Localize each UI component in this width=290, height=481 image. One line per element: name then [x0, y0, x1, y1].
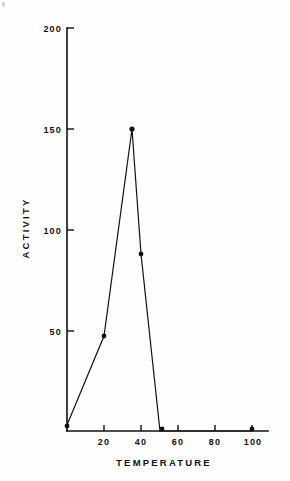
data-point-4 — [160, 427, 165, 432]
x-tick-label-40: 40 — [135, 437, 147, 447]
scan-artifact — [2, 2, 5, 7]
x-tick-label-80: 80 — [209, 437, 221, 447]
data-point-0 — [65, 424, 70, 429]
data-point-2 — [129, 126, 134, 131]
y-axis-title: ACTIVITY — [20, 198, 31, 259]
x-tick-label-20: 20 — [98, 437, 110, 447]
line-chart-plot: 200 150 100 50 20 40 60 80 100 ACTIVITY … — [0, 0, 290, 481]
y-tick-label-200: 200 — [43, 24, 62, 34]
data-point-1 — [102, 334, 107, 339]
chart-background — [0, 0, 290, 481]
y-tick-label-100: 100 — [43, 226, 62, 236]
data-point-5 — [250, 427, 255, 432]
y-tick-label-150: 150 — [43, 125, 62, 135]
x-tick-label-60: 60 — [172, 437, 184, 447]
chart-figure: 200 150 100 50 20 40 60 80 100 ACTIVITY … — [0, 0, 290, 481]
x-tick-label-100: 100 — [244, 437, 263, 447]
y-tick-label-50: 50 — [50, 327, 62, 337]
x-axis-title: TEMPERATURE — [116, 457, 212, 468]
data-point-3 — [139, 252, 144, 257]
